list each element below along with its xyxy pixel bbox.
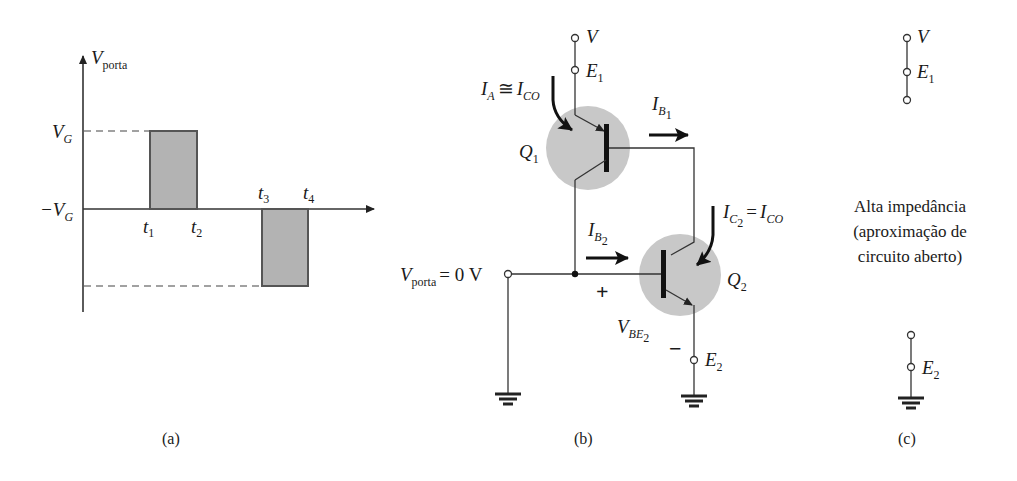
high-impedance-note-line2: (aproximação de [853,222,967,241]
time-mark-t2: t2 [191,216,202,240]
c-e1-terminal [904,69,911,76]
e2-terminal [691,357,698,364]
time-mark-t4: t4 [303,182,314,206]
c-e2-label: E2 [921,357,940,382]
e1-terminal [572,67,579,74]
base1-current-label: IB1 [651,93,672,122]
q2-label: Q2 [727,269,747,294]
anode-current-label: IA≅ICO [480,78,540,103]
collector2-current-label: IC2=ICO [722,201,783,230]
caption-b: (b) [574,430,593,448]
vbe2-minus: − [669,336,682,361]
time-mark-t3: t3 [258,182,269,206]
c-open-terminal-bottom [908,332,915,339]
gate-input-label: Vporta= 0 V [400,264,483,289]
q1-base-bar [604,124,609,172]
negative-pulse [262,209,308,286]
positive-pulse [150,131,197,209]
panel-b-circuit: V E1 E2 Vporta= 0 V [400,26,783,448]
high-impedance-note-line1: Alta impedância [854,197,966,216]
c-e2-terminal [908,364,915,371]
thyristor-figure: Vporta VG −VG t1 t2 t3 t4 (a) V E1 [0,0,1017,481]
time-mark-t1: t1 [143,216,154,240]
ground-icon-c [898,398,924,408]
level-high-label: VG [52,121,73,146]
caption-a: (a) [162,430,180,448]
e2-label: E2 [704,349,723,374]
ground-icon-gate [495,394,521,404]
c-e1-label: E1 [916,61,935,86]
supply-label: V [586,26,600,47]
high-impedance-note-line3: circuito aberto) [858,247,962,266]
e1-label: E1 [585,60,604,85]
panel-c-open-circuit: V E1 Alta impedância (aproximação de cir… [853,26,967,448]
base2-current-label: IB2 [587,219,608,248]
y-axis-label: Vporta [91,47,128,72]
c-supply-terminal [904,35,911,42]
junction-dot [572,271,578,277]
caption-c: (c) [898,430,916,448]
q1-label: Q1 [519,141,539,166]
q2-halo [639,234,721,316]
panel-a-waveform: Vporta VG −VG t1 t2 t3 t4 (a) [40,47,374,448]
q2-base-bar [661,250,666,298]
ground-icon-q2 [681,396,707,406]
c-open-terminal-top [904,97,911,104]
c-supply-label: V [917,26,931,47]
supply-terminal [572,35,579,42]
gate-terminal [505,271,512,278]
vbe2-label: VBE2 [617,316,649,345]
vbe2-plus: + [596,279,609,304]
level-low-label: −VG [40,199,73,224]
